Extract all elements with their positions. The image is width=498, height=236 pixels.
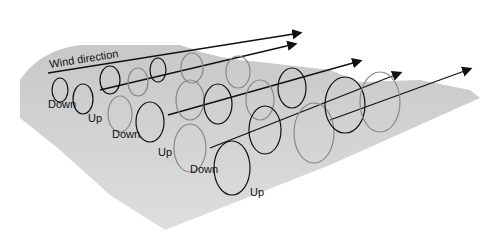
up-label: Up [158, 146, 172, 158]
roll-vortex-diagram: Wind direction Down Up Down Up Down Up [0, 0, 498, 236]
up-label: Up [250, 186, 264, 198]
down-label: Down [112, 128, 140, 140]
down-label: Down [48, 98, 76, 110]
up-label: Up [88, 112, 102, 124]
down-label: Down [190, 163, 218, 175]
